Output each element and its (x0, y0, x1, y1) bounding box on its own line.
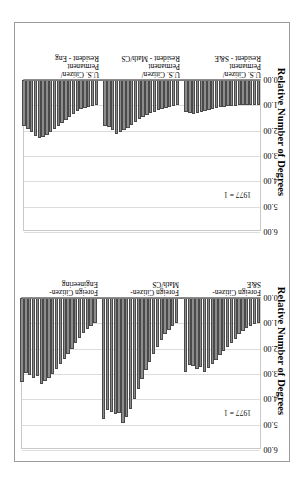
category-label: U.S. Citizen/PermanentResident - Eng (23, 55, 99, 78)
x-gridline (24, 156, 260, 157)
x-tick-label: 1.00 (258, 318, 284, 327)
bar (211, 298, 214, 364)
category-label-line: Foreign Citizen- (49, 288, 98, 297)
bar (110, 298, 113, 412)
bar (144, 298, 147, 370)
bar (57, 80, 60, 126)
category-label: Foreign Citizen-S&E (184, 280, 261, 296)
bar (117, 298, 120, 413)
bar (211, 80, 214, 109)
category-label-line: S&E (247, 280, 261, 289)
x-gridline (24, 131, 260, 132)
bar (153, 80, 156, 112)
x-gridline (24, 232, 260, 233)
bar (87, 80, 90, 107)
category-label-line: Foreign Citizen- (131, 288, 180, 297)
bar (64, 80, 67, 120)
bar (134, 80, 137, 122)
bar (203, 298, 206, 372)
x-gridline (22, 399, 260, 400)
category-label-line: Resident - Math/CS (121, 54, 180, 63)
bar (241, 298, 244, 331)
bar (222, 80, 225, 107)
x-tick-label: 1.00 (258, 100, 284, 109)
bar (191, 298, 194, 366)
chart-us-citizen-permanent-resident: Relative Number of Degrees 1977 = 1 0.00… (15, 23, 291, 241)
bar (222, 298, 225, 351)
bar (184, 80, 187, 112)
plot-area-top (23, 79, 261, 231)
bar (195, 298, 198, 369)
chart-slot-top: Relative Number of Degrees 1977 = 1 0.00… (15, 23, 291, 241)
x-tick-label: 2.00 (258, 125, 284, 134)
bar (22, 80, 25, 126)
category-label: U.S. Citizen/PermanentResident - Math/CS (104, 55, 180, 78)
bar (47, 298, 50, 378)
bar (215, 80, 218, 108)
bar (253, 298, 256, 324)
bar (83, 80, 86, 108)
bar (26, 80, 29, 129)
bar (43, 298, 46, 381)
bar (176, 80, 179, 105)
x-tick-label: 5.00 (258, 419, 284, 428)
bar (103, 80, 106, 126)
bar (82, 298, 85, 333)
bar (34, 80, 37, 136)
bar (49, 80, 52, 132)
x-tick-label: 0.00 (258, 75, 284, 84)
bar (93, 298, 96, 323)
bar (188, 80, 191, 113)
x-gridline (24, 207, 260, 208)
bar (172, 80, 175, 106)
x-gridline (24, 181, 260, 182)
bar (230, 80, 233, 106)
bar (40, 298, 43, 384)
chart-foreign-citizen: Relative Number of Degrees 1977 = 1 0.00… (15, 241, 291, 461)
bar (41, 80, 44, 137)
bar (55, 298, 58, 369)
bar (196, 80, 199, 113)
chart-slot-bottom: Relative Number of Degrees 1977 = 1 0.00… (15, 241, 291, 461)
bar (219, 80, 222, 107)
bar (137, 298, 140, 389)
category-label-line: U.S. Citizen/ (142, 70, 180, 79)
x-tick-label: 3.00 (258, 151, 284, 160)
bar (114, 298, 117, 414)
bar (234, 298, 237, 339)
category-label-line: Permanent (229, 62, 261, 71)
bar (230, 298, 233, 343)
bar (45, 80, 48, 135)
bar (107, 80, 110, 127)
x-tick-label: 6.00 (258, 227, 284, 236)
bar (163, 298, 166, 334)
bar (226, 80, 229, 106)
x-tick-label: 4.00 (258, 394, 284, 403)
bar (32, 298, 35, 378)
category-label-line: U.S. Citizen/ (61, 70, 99, 79)
chart-rotor-top: Relative Number of Degrees 1977 = 1 0.00… (15, 23, 291, 241)
bar (76, 80, 79, 111)
bar (200, 80, 203, 112)
bar (203, 80, 206, 111)
bar (20, 298, 23, 382)
page-frame: Relative Number of Degrees 1977 = 1 0.00… (14, 22, 290, 462)
axis-baseline (24, 80, 260, 81)
bar (51, 298, 54, 374)
bar (199, 298, 202, 367)
bar (184, 298, 187, 372)
chart-rotor-bottom: Relative Number of Degrees 1977 = 1 0.00… (15, 241, 291, 461)
bar (160, 298, 163, 340)
bar (66, 298, 69, 354)
bar (121, 298, 124, 423)
x-tick-label: 5.00 (258, 201, 284, 210)
x-tick-label: 3.00 (258, 369, 284, 378)
bar (36, 298, 39, 376)
bar (245, 80, 248, 105)
category-label-line: U.S. Citizen/ (223, 70, 261, 79)
bar (28, 298, 31, 375)
x-gridline (22, 425, 260, 426)
bar (164, 80, 167, 108)
bar (245, 298, 248, 328)
bar (111, 80, 114, 130)
